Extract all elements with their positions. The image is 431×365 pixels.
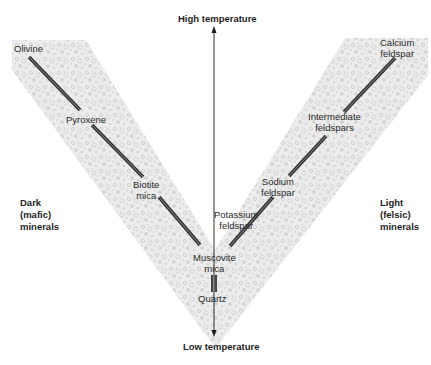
intermediate-text: Intermediate [308, 111, 361, 122]
feldspar-text: feldspar [261, 187, 295, 198]
feldspar-text: feldspar [380, 48, 414, 59]
light-label: Light [380, 197, 419, 209]
arrow-up-icon [212, 26, 217, 33]
minerals-label: minerals [20, 221, 59, 233]
dark-label: Dark [20, 197, 59, 209]
dark-mafic-minerals-label: Dark (mafic) minerals [20, 197, 59, 233]
minerals-label: minerals [380, 221, 419, 233]
calcium-text: Calcium [380, 37, 414, 48]
biotite-mica-label: Biotite mica [133, 179, 159, 201]
potassium-feldspar-label: Potassium feldspar [214, 209, 258, 231]
pyroxene-label: Pyroxene [66, 114, 106, 125]
sodium-text: Sodium [261, 176, 295, 187]
feldspar-text: feldspar [214, 220, 258, 231]
mica-text: mica [193, 263, 236, 274]
intermediate-feldspars-label: Intermediate feldspars [308, 111, 361, 133]
light-felsic-minerals-label: Light (felsic) minerals [380, 197, 419, 233]
potassium-text: Potassium [214, 209, 258, 220]
muscovite-text: Muscovite [193, 252, 236, 263]
calcium-feldspar-label: Calcium feldspar [380, 37, 414, 59]
feldspars-text: feldspars [308, 122, 361, 133]
olivine-label: Olivine [14, 43, 43, 54]
muscovite-mica-label: Muscovite mica [193, 252, 236, 274]
biotite-text: Biotite [133, 179, 159, 190]
bowens-reaction-series-diagram [0, 0, 431, 365]
mafic-label: (mafic) [20, 209, 59, 221]
low-temperature-label: Low temperature [183, 341, 260, 353]
quartz-label: Quartz [198, 293, 227, 304]
felsic-label: (felsic) [380, 209, 419, 221]
mica-text: mica [133, 190, 159, 201]
sodium-feldspar-label: Sodium feldspar [261, 176, 295, 198]
high-temperature-label: High temperature [178, 13, 257, 25]
